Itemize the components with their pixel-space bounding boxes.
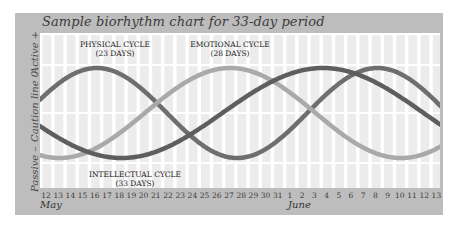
x-tick-label: 23 — [174, 191, 186, 200]
x-tick-label: 27 — [223, 191, 235, 200]
x-tick-label: 17 — [101, 191, 113, 200]
y-label-passive: Passive – — [29, 147, 40, 192]
physical-title: PHYSICAL CYCLE — [70, 40, 160, 49]
x-tick-label: 9 — [382, 191, 394, 200]
x-tick-label: 18 — [113, 191, 125, 200]
grid-stripe — [408, 35, 417, 188]
grid-stripe — [384, 35, 393, 188]
x-tick-label: 31 — [272, 191, 284, 200]
x-tick-label: 22 — [162, 191, 174, 200]
y-label-caution: Caution line 0 — [29, 71, 40, 142]
x-tick-label: 6 — [345, 191, 357, 200]
x-tick-label: 26 — [211, 191, 223, 200]
x-tick-label: 13 — [430, 191, 442, 200]
grid-stripe — [396, 35, 405, 188]
label-emotional: EMOTIONAL CYCLE (28 DAYS) — [180, 40, 280, 58]
x-tick-label: 11 — [406, 191, 418, 200]
intellectual-sub: (33 DAYS) — [80, 179, 190, 188]
x-tick-label: 19 — [125, 191, 137, 200]
label-physical: PHYSICAL CYCLE (23 DAYS) — [70, 40, 160, 58]
x-tick-label: 12 — [418, 191, 430, 200]
x-tick-label: 16 — [89, 191, 101, 200]
x-tick-label: 20 — [138, 191, 150, 200]
x-tick-label: 5 — [333, 191, 345, 200]
label-intellectual: INTELLECTUAL CYCLE (33 DAYS) — [80, 170, 190, 188]
x-tick-label: 30 — [260, 191, 272, 200]
x-tick-label: 8 — [369, 191, 381, 200]
x-tick-label: 29 — [247, 191, 259, 200]
grid-stripe — [360, 35, 369, 188]
physical-sub: (23 DAYS) — [70, 49, 160, 58]
x-tick-label: 4 — [321, 191, 333, 200]
x-tick-label: 25 — [199, 191, 211, 200]
x-tick-label: 24 — [186, 191, 198, 200]
grid-stripe — [335, 35, 344, 188]
x-tick-label: 21 — [150, 191, 162, 200]
emotional-sub: (28 DAYS) — [180, 49, 280, 58]
grid-stripe — [372, 35, 381, 188]
grid-stripe — [433, 35, 440, 188]
emotional-title: EMOTIONAL CYCLE — [180, 40, 280, 49]
intellectual-title: INTELLECTUAL CYCLE — [80, 170, 190, 179]
grid-stripe — [323, 35, 332, 188]
x-tick-label: 28 — [235, 191, 247, 200]
x-tick-label: 7 — [357, 191, 369, 200]
grid-stripe — [42, 35, 51, 188]
x-tick-label: 10 — [394, 191, 406, 200]
grid-stripe — [347, 35, 356, 188]
grid-stripe — [286, 35, 295, 188]
x-tick-label: 14 — [64, 191, 76, 200]
month-may: May — [40, 199, 62, 210]
month-june: June — [288, 199, 311, 210]
y-label-active: Active + — [29, 31, 40, 74]
chart-title: Sample biorhythm chart for 33-day period — [42, 14, 325, 32]
grid-stripe — [55, 35, 64, 188]
x-tick-label: 15 — [77, 191, 89, 200]
